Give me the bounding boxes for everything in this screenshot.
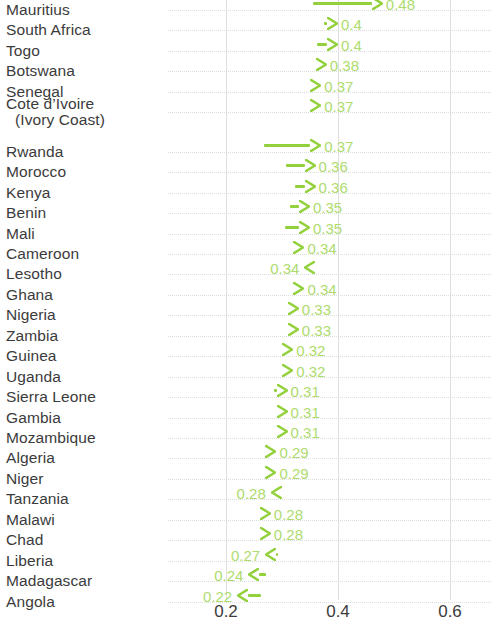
arrow-head-right-icon — [310, 99, 320, 112]
arrow-head-right-icon — [305, 159, 315, 172]
arrow-head-right-icon — [372, 0, 382, 10]
value-arrow — [0, 343, 491, 357]
arrow-head-right-icon — [277, 405, 287, 418]
value-label: 0.33 — [302, 302, 331, 317]
arrow-head-right-icon — [288, 323, 298, 336]
value-label: 0.29 — [279, 445, 308, 460]
value-label: 0.28 — [274, 507, 303, 522]
arrow-shaft — [286, 164, 304, 167]
arrow-head-right-icon — [277, 384, 287, 397]
value-label: 0.36 — [319, 180, 348, 195]
x-axis: 0.20.40.6 — [0, 598, 491, 627]
value-arrow — [0, 466, 491, 480]
value-arrow — [0, 323, 491, 337]
value-arrow — [0, 0, 491, 11]
value-label: 0.33 — [302, 323, 331, 338]
value-arrow — [0, 364, 491, 378]
arrow-head-right-icon — [316, 58, 326, 71]
value-label: 0.37 — [324, 99, 353, 114]
arrow-shaft — [276, 553, 277, 556]
arrow-shaft — [285, 226, 299, 229]
value-arrow — [0, 200, 491, 214]
value-label: 0.37 — [324, 139, 353, 154]
value-arrow — [0, 17, 491, 31]
arrow-shaft — [248, 594, 261, 597]
value-arrow — [0, 405, 491, 419]
value-arrow — [0, 425, 491, 439]
value-label: 0.35 — [313, 200, 342, 215]
value-label: 0.48 — [386, 0, 415, 12]
value-arrow — [0, 302, 491, 316]
arrow-head-right-icon — [305, 180, 315, 193]
arrow-head-right-icon — [277, 425, 287, 438]
arrow-head-right-icon — [282, 364, 292, 377]
value-arrow — [0, 79, 491, 93]
arrow-head-right-icon — [327, 17, 337, 30]
arrow-head-left-icon — [304, 261, 314, 274]
arrow-chart: MauritiusSouth AfricaTogoBotswanaSenegal… — [0, 0, 491, 627]
arrow-head-right-icon — [310, 79, 320, 92]
value-arrow — [0, 58, 491, 72]
value-label: 0.24 — [214, 568, 243, 583]
value-label: 0.28 — [274, 527, 303, 542]
arrow-head-right-icon — [293, 241, 303, 254]
value-label: 0.4 — [341, 17, 362, 32]
value-arrow — [0, 99, 491, 113]
value-arrow — [0, 261, 491, 275]
value-label: 0.35 — [313, 221, 342, 236]
value-arrow — [0, 384, 491, 398]
arrow-head-right-icon — [265, 466, 275, 479]
value-arrow — [0, 445, 491, 459]
value-label: 0.34 — [307, 282, 336, 297]
value-arrow — [0, 38, 491, 52]
arrow-shaft — [264, 144, 311, 147]
value-label: 0.27 — [231, 548, 260, 563]
value-label: 0.28 — [237, 486, 266, 501]
x-tick-label: 0.6 — [438, 602, 462, 622]
arrow-head-right-icon — [293, 282, 303, 295]
value-arrow — [0, 568, 491, 582]
value-label: 0.32 — [296, 343, 325, 358]
value-arrow — [0, 507, 491, 521]
value-label: 0.31 — [291, 425, 320, 440]
value-label: 0.34 — [307, 241, 336, 256]
value-label: 0.37 — [324, 79, 353, 94]
arrow-shaft — [313, 2, 372, 5]
value-label: 0.29 — [279, 466, 308, 481]
value-label: 0.38 — [330, 58, 359, 73]
arrow-shaft — [317, 43, 327, 46]
value-label: 0.31 — [291, 405, 320, 420]
plot-area: MauritiusSouth AfricaTogoBotswanaSenegal… — [0, 0, 491, 600]
arrow-shaft — [259, 573, 266, 576]
value-arrow — [0, 180, 491, 194]
arrow-head-left-icon — [265, 548, 275, 561]
value-arrow — [0, 241, 491, 255]
arrow-shaft — [295, 185, 305, 188]
arrow-head-right-icon — [260, 527, 270, 540]
arrow-head-right-icon — [265, 445, 275, 458]
value-label: 0.32 — [296, 364, 325, 379]
arrow-head-right-icon — [327, 38, 337, 51]
arrow-head-left-icon — [271, 486, 281, 499]
value-label: 0.4 — [341, 38, 362, 53]
arrow-shaft — [290, 205, 299, 208]
arrow-head-right-icon — [299, 200, 309, 213]
value-label: 0.31 — [291, 384, 320, 399]
x-tick-label: 0.4 — [326, 602, 350, 622]
arrow-head-right-icon — [299, 221, 309, 234]
arrow-head-left-icon — [248, 568, 258, 581]
arrow-head-right-icon — [310, 139, 320, 152]
value-arrow — [0, 527, 491, 541]
arrow-head-right-icon — [282, 343, 292, 356]
value-arrow — [0, 221, 491, 235]
value-label: 0.34 — [270, 261, 299, 276]
arrow-head-right-icon — [260, 507, 270, 520]
value-arrow — [0, 282, 491, 296]
value-label: 0.36 — [319, 159, 348, 174]
category-label-text-line2: (Ivory Coast) — [6, 112, 105, 128]
value-arrow — [0, 139, 491, 153]
value-arrow — [0, 159, 491, 173]
x-tick-label: 0.2 — [214, 602, 238, 622]
arrow-head-right-icon — [288, 302, 298, 315]
